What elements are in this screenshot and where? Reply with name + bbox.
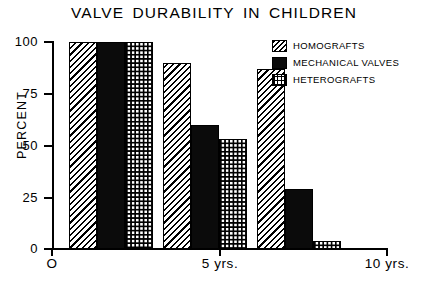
bar-mechanical-valves-0yr [97, 42, 125, 249]
legend-item-mechanical-valves: MECHANICAL VALVES [272, 55, 424, 70]
y-tick-25 [44, 197, 52, 199]
y-tick-100 [44, 41, 52, 43]
legend-item-homografts: HOMOGRAFTS [272, 38, 424, 53]
solid-black-swatch-icon [272, 57, 287, 69]
y-tick-50 [44, 145, 52, 147]
y-tick-label-75: 75 [23, 87, 38, 100]
y-tick-label-100: 100 [15, 35, 38, 48]
y-tick-label-0: 0 [30, 242, 38, 255]
legend-label-homografts: HOMOGRAFTS [293, 40, 365, 51]
chart-title: VALVE DURABILITY IN CHILDREN [0, 4, 428, 22]
bar-mechanical-valves-10yr [285, 189, 313, 249]
x-tick-label-10yrs: 10 yrs. [365, 256, 410, 271]
bar-homografts-5yr [163, 63, 191, 249]
legend-label-heterografts: HETEROGRAFTS [293, 74, 375, 85]
bar-heterografts-0yr [125, 42, 153, 249]
bar-mechanical-valves-5yr [191, 125, 219, 249]
legend-label-mechanical-valves: MECHANICAL VALVES [293, 57, 399, 68]
dotted-grid-swatch-icon [272, 74, 287, 86]
bar-homografts-10yr [257, 69, 285, 249]
diagonal-hatch-swatch-icon [272, 40, 287, 52]
y-tick-75 [44, 93, 52, 95]
bar-chart: VALVE DURABILITY IN CHILDREN PERCENT 100… [0, 0, 428, 288]
y-tick-label-50: 50 [23, 139, 38, 152]
legend-item-heterografts: HETEROGRAFTS [272, 72, 424, 87]
x-tick-label-0: O [46, 256, 57, 271]
chart-legend: HOMOGRAFTS MECHANICAL VALVES HETEROGRAFT… [272, 38, 424, 89]
y-tick-label-25: 25 [23, 191, 38, 204]
bar-heterografts-10yr [313, 241, 341, 249]
bar-homografts-0yr [69, 42, 97, 249]
bar-heterografts-5yr [219, 139, 247, 249]
x-tick-label-5yrs: 5 yrs. [202, 256, 239, 271]
